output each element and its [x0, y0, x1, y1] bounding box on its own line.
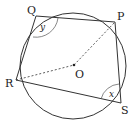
- label-R: R: [5, 77, 14, 90]
- label-P: P: [117, 10, 125, 23]
- circle: [20, 13, 126, 119]
- angle-label-y: y: [39, 22, 46, 32]
- diagram: Q P R S O y x: [0, 0, 136, 124]
- center-point: [73, 64, 76, 67]
- label-Q: Q: [27, 4, 36, 17]
- radius-OP: [74, 22, 115, 65]
- label-S: S: [121, 104, 129, 117]
- quadrilateral-PQRS: [16, 16, 121, 103]
- radius-OR: [16, 65, 74, 80]
- angle-label-x: x: [109, 89, 114, 99]
- label-O: O: [75, 68, 84, 81]
